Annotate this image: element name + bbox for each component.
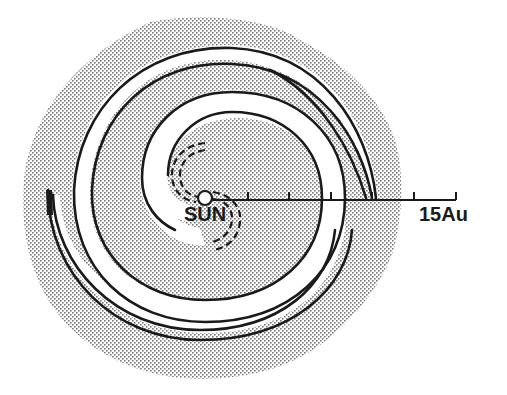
- spiral-diagram: [0, 0, 507, 395]
- scale-label: 15Au: [419, 203, 468, 226]
- left-arm-tip: [46, 190, 53, 215]
- sun-label: SUN: [184, 203, 226, 226]
